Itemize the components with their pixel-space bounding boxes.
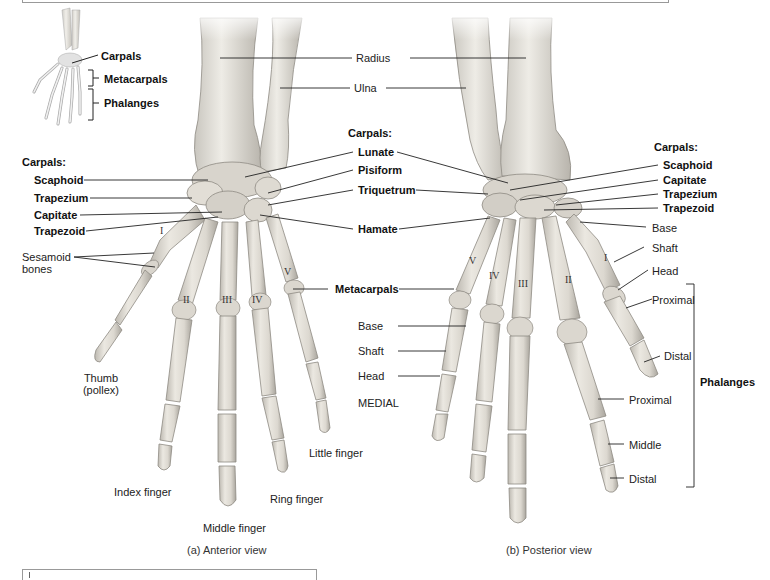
numeral-I-posterior: I (604, 252, 607, 263)
numeral-II-anterior: II (183, 294, 190, 305)
label-trapezium-anterior: Trapezium (34, 192, 88, 204)
numeral-II-posterior: II (565, 274, 572, 285)
posterior-hand (432, 10, 658, 523)
label-head-right: Head (652, 265, 678, 277)
label-trapezoid-anterior: Trapezoid (34, 225, 85, 237)
label-proximal-finger: Proximal (629, 394, 672, 406)
posterior-carpals-heading: Carpals: (654, 141, 698, 153)
label-ulna: Ulna (354, 82, 377, 94)
label-radius: Radius (356, 52, 390, 64)
label-medial: MEDIAL (358, 397, 399, 409)
label-thumb: Thumb (78, 372, 124, 384)
label-capitate-anterior: Capitate (34, 209, 77, 221)
label-base-left: Base (358, 320, 383, 332)
caption-posterior-view: (b) Posterior view (506, 544, 592, 556)
label-trapezoid-posterior: Trapezoid (663, 202, 714, 214)
anterior-carpals-heading: Carpals: (22, 156, 66, 168)
label-distal-finger: Distal (629, 473, 657, 485)
label-ring-finger: Ring finger (270, 493, 323, 505)
label-index-finger: Index finger (114, 486, 171, 498)
label-pisiform: Pisiform (358, 164, 402, 176)
numeral-IV-posterior: IV (489, 270, 500, 281)
label-proximal-thumb: Proximal (652, 294, 695, 306)
label-scaphoid-anterior: Scaphoid (34, 174, 84, 186)
numeral-IV-anterior: IV (252, 294, 263, 305)
label-triquetrum: Triquetrum (358, 184, 415, 196)
label-capitate-posterior: Capitate (663, 174, 706, 186)
numeral-V-anterior: V (284, 266, 291, 277)
label-shaft-left: Shaft (358, 345, 384, 357)
inset-hand-illustration (34, 8, 82, 124)
caption-anterior-view: (a) Anterior view (187, 544, 266, 556)
label-middle-finger-phalanx: Middle (629, 439, 661, 451)
label-distal-thumb: Distal (664, 350, 692, 362)
label-lunate: Lunate (358, 146, 394, 158)
label-sesamoid-line1: Sesamoid (22, 251, 71, 263)
label-sesamoid-line2: bones (22, 263, 52, 275)
label-trapezium-posterior: Trapezium (663, 188, 717, 200)
inset-label-metacarpals: Metacarpals (104, 73, 168, 85)
inset-label-carpals: Carpals (101, 50, 141, 62)
label-base-right: Base (652, 222, 677, 234)
inset-label-phalanges: Phalanges (104, 97, 159, 109)
numeral-I-anterior: I (160, 225, 163, 236)
label-pollex: (pollex) (78, 384, 124, 396)
label-head-left: Head (358, 370, 384, 382)
label-little-finger: Little finger (309, 447, 363, 459)
label-scaphoid-posterior: Scaphoid (663, 159, 713, 171)
label-middle-finger: Middle finger (203, 522, 266, 534)
numeral-III-posterior: III (518, 278, 528, 289)
center-carpals-heading: Carpals: (348, 127, 392, 139)
label-metacarpals-center: Metacarpals (335, 283, 399, 295)
label-phalanges-bracket: Phalanges (700, 376, 755, 388)
numeral-III-anterior: III (222, 294, 232, 305)
label-shaft-right: Shaft (652, 242, 678, 254)
label-hamate: Hamate (358, 223, 398, 235)
numeral-V-posterior: V (469, 255, 476, 266)
